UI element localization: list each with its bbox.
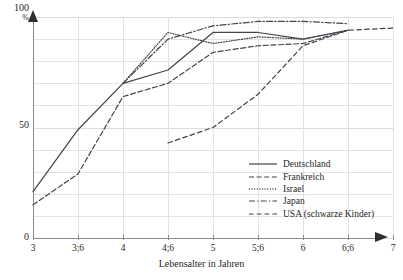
series-line (123, 30, 348, 83)
legend-line-swatch (248, 172, 278, 182)
legend-line-swatch (248, 196, 278, 206)
legend-item[interactable]: USA (schwarze Kinder) (248, 208, 398, 220)
legend-item[interactable]: Japan (248, 195, 398, 207)
legend-item[interactable]: Israel (248, 183, 398, 195)
series-line (123, 21, 348, 83)
legend-item[interactable]: Deutschland (248, 158, 398, 170)
legend-line-swatch (248, 159, 278, 169)
legend-line-swatch (248, 184, 278, 194)
legend-label: USA (schwarze Kinder) (283, 209, 374, 219)
chart-legend: DeutschlandFrankreichIsraelJapanUSA (sch… (248, 158, 398, 220)
line-chart: 100 % 50 0 33;644;655;666;67 Lebensalter… (0, 0, 403, 280)
legend-label: Israel (283, 184, 304, 194)
series-line (168, 28, 393, 143)
legend-item[interactable]: Frankreich (248, 170, 398, 182)
legend-label: Japan (283, 196, 305, 206)
legend-label: Deutschland (283, 159, 331, 169)
legend-label: Frankreich (283, 172, 324, 182)
series-layer (0, 0, 403, 280)
x-axis-title: Lebensalter in Jahren (0, 258, 403, 269)
legend-line-swatch (248, 209, 278, 219)
